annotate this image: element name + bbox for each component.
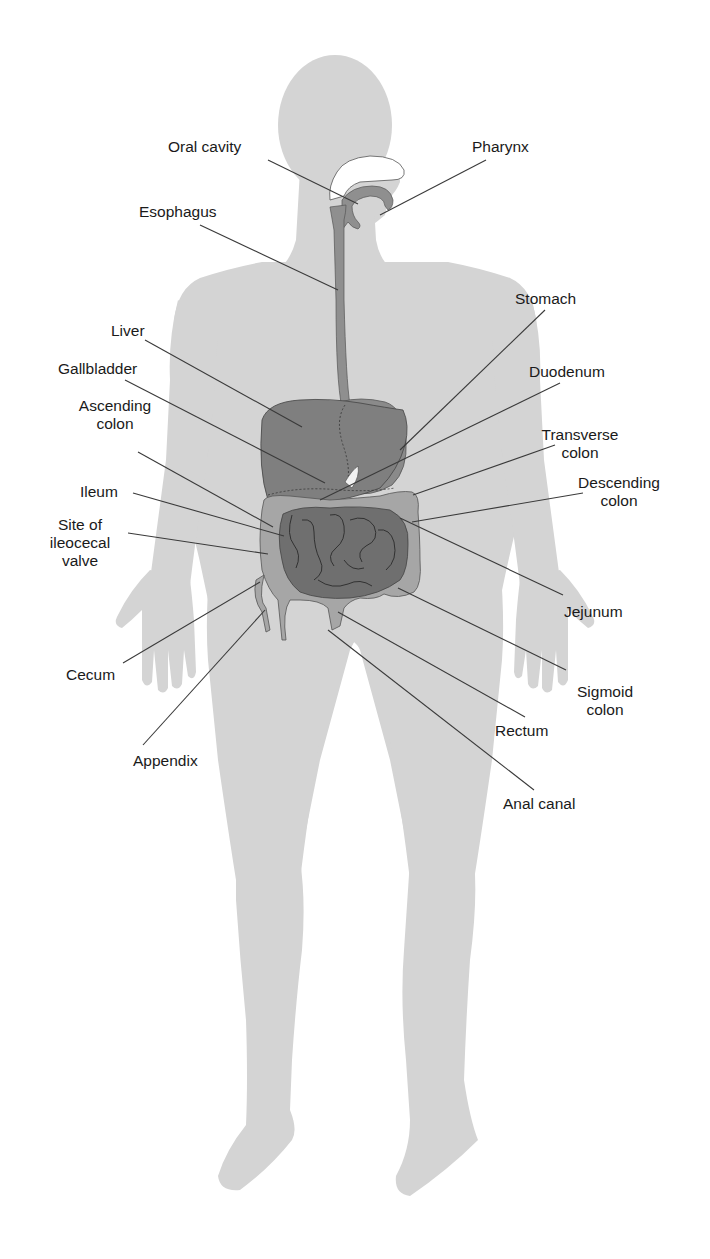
- label-pharynx: Pharynx: [472, 138, 529, 156]
- label-sigmoid-colon: Sigmoid colon: [565, 683, 645, 719]
- label-ascending-colon: Ascending colon: [65, 397, 165, 433]
- label-liver: Liver: [111, 322, 145, 340]
- label-appendix: Appendix: [133, 752, 198, 770]
- label-stomach: Stomach: [515, 290, 576, 308]
- label-transverse-colon: Transverse colon: [530, 426, 630, 462]
- label-ileocecal-valve: Site of ileocecal valve: [40, 516, 120, 570]
- digestive-system-diagram: [0, 0, 710, 1259]
- label-jejunum: Jejunum: [564, 603, 623, 621]
- label-descending-colon: Descending colon: [564, 474, 674, 510]
- small-intestine-shape: [279, 507, 408, 599]
- label-rectum: Rectum: [495, 722, 548, 740]
- label-anal-canal: Anal canal: [503, 795, 575, 813]
- label-duodenum: Duodenum: [529, 363, 605, 381]
- label-esophagus: Esophagus: [139, 203, 217, 221]
- label-cecum: Cecum: [66, 666, 115, 684]
- label-ileum: Ileum: [80, 483, 118, 501]
- label-gallbladder: Gallbladder: [58, 360, 137, 378]
- label-oral-cavity: Oral cavity: [168, 138, 241, 156]
